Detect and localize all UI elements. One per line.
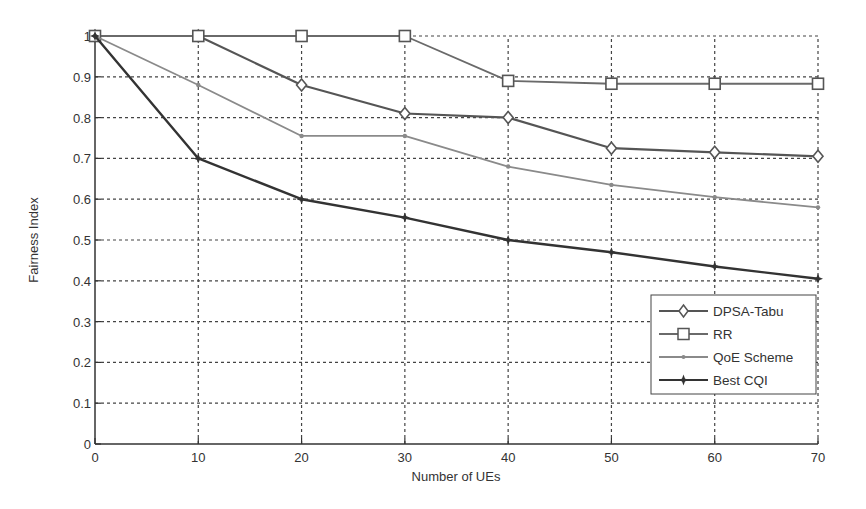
y-tick-label: 0 — [84, 437, 91, 452]
dot-marker-icon — [403, 134, 407, 138]
square-marker-icon — [813, 78, 824, 89]
tick-labels: 01020304050607000.10.20.30.40.50.60.70.8… — [73, 29, 825, 465]
y-tick-label: 0.7 — [73, 151, 91, 166]
series-rr — [90, 31, 824, 90]
legend-label: RR — [713, 327, 733, 342]
y-tick-label: 0.9 — [73, 70, 91, 85]
y-tick-label: 0.2 — [73, 355, 91, 370]
y-tick-label: 0.5 — [73, 233, 91, 248]
square-marker-icon — [606, 78, 617, 89]
x-tick-label: 40 — [501, 450, 515, 465]
square-marker-icon — [709, 78, 720, 89]
y-tick-label: 0.3 — [73, 315, 91, 330]
square-marker-icon — [399, 31, 410, 42]
diamond-marker-icon — [606, 142, 616, 154]
dot-marker-icon — [299, 134, 303, 138]
y-tick-label: 0.6 — [73, 192, 91, 207]
dot-marker-icon — [682, 355, 686, 359]
legend-label: QoE Scheme — [713, 350, 793, 365]
dot-marker-icon — [506, 164, 510, 168]
diamond-marker-icon — [297, 79, 307, 91]
star-marker-icon — [710, 262, 720, 272]
legend: DPSA-Tabu RR QoE Scheme Best CQI — [651, 295, 816, 394]
dot-marker-icon — [609, 183, 613, 187]
diamond-marker-icon — [710, 146, 720, 158]
legend-label: Best CQI — [713, 373, 768, 388]
series-dpsa-tabu — [90, 30, 823, 162]
x-tick-label: 0 — [91, 450, 98, 465]
star-marker-icon — [813, 274, 823, 284]
y-axis-label: Fairness Index — [26, 197, 41, 283]
fairness-line-chart: 01020304050607000.10.20.30.40.50.60.70.8… — [0, 0, 866, 509]
y-tick-label: 0.8 — [73, 111, 91, 126]
diamond-marker-icon — [813, 150, 823, 162]
star-marker-icon — [297, 194, 307, 204]
star-marker-icon — [606, 247, 616, 257]
legend-label: DPSA-Tabu — [713, 304, 784, 319]
x-tick-label: 60 — [707, 450, 721, 465]
x-tick-label: 50 — [604, 450, 618, 465]
square-marker-icon — [678, 329, 689, 340]
square-marker-icon — [193, 31, 204, 42]
x-axis-label: Number of UEs — [412, 469, 501, 484]
dot-marker-icon — [713, 195, 717, 199]
x-tick-label: 20 — [294, 450, 308, 465]
square-marker-icon — [296, 31, 307, 42]
x-tick-label: 10 — [191, 450, 205, 465]
y-tick-label: 0.1 — [73, 396, 91, 411]
dot-marker-icon — [196, 83, 200, 87]
data-series — [90, 30, 824, 284]
x-tick-label: 30 — [398, 450, 412, 465]
square-marker-icon — [503, 75, 514, 86]
star-marker-icon — [400, 213, 410, 223]
y-tick-label: 0.4 — [73, 274, 91, 289]
x-tick-label: 70 — [811, 450, 825, 465]
star-marker-icon — [503, 235, 513, 245]
diamond-marker-icon — [503, 112, 513, 124]
series-qoe-scheme — [93, 34, 820, 210]
dot-marker-icon — [816, 205, 820, 209]
